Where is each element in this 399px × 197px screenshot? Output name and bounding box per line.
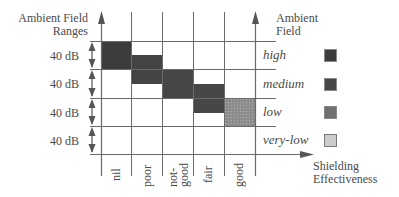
legend-label-very-low: very-low <box>263 134 308 146</box>
legend-axis-arrow <box>252 11 259 176</box>
range-arrows <box>89 42 96 153</box>
legend-swatch-low <box>324 106 337 119</box>
legend-title: Ambient Field <box>276 12 318 37</box>
legend-swatch-very-low <box>324 134 337 147</box>
x-category-good: good <box>233 163 245 187</box>
legend-swatch-medium <box>324 78 337 91</box>
y-axis-title: Ambient Field Ranges <box>4 12 88 37</box>
x-category-poor: poor <box>141 165 153 187</box>
y-axis-arrow <box>98 11 105 176</box>
range-label: 40 dB <box>50 135 79 147</box>
x-category-nil: nil <box>110 168 122 181</box>
x-axis-title: Shielding Effectiveness <box>313 160 377 185</box>
legend-swatch-high <box>324 49 337 62</box>
block-notgood-medium <box>162 69 193 98</box>
range-label: 40 dB <box>50 107 79 119</box>
legend-label-low: low <box>263 106 282 118</box>
block-nil-high <box>101 41 131 69</box>
legend-label-high: high <box>263 49 286 61</box>
x-axis-title-line1: Shielding <box>313 160 377 172</box>
range-label: 40 dB <box>50 50 79 62</box>
y-axis-title-line2: Ranges <box>4 25 88 37</box>
staircase-blocks <box>101 41 255 126</box>
x-category-fair: fair <box>202 166 214 183</box>
y-axis-title-line1: Ambient Field <box>4 12 88 24</box>
x-category-not-good-line2: good <box>178 163 190 187</box>
legend-title-line2: Field <box>276 25 318 37</box>
x-axis-title-line2: Effectiveness <box>313 173 377 185</box>
legend-label-medium: medium <box>263 78 304 90</box>
legend-title-line1: Ambient <box>276 12 318 24</box>
block-good-verylow <box>224 98 255 126</box>
x-axis-arrow <box>90 151 314 158</box>
range-label: 40 dB <box>50 78 79 90</box>
